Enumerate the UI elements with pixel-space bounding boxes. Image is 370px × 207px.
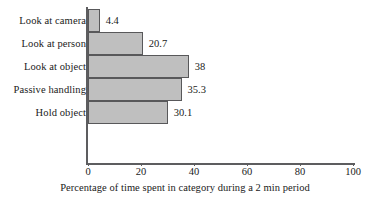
x-axis-tick-label: 80 (280, 166, 320, 177)
bar-value-label: 38 (195, 55, 206, 78)
bar-value-label: 30.1 (174, 101, 192, 124)
x-axis-line (86, 163, 355, 165)
bar (88, 32, 143, 55)
x-axis-tick-label: 20 (121, 166, 161, 177)
bar-value-label: 35.3 (188, 78, 206, 101)
x-axis-tick-label: 0 (68, 166, 108, 177)
bar (88, 101, 168, 124)
bar-value-label: 20.7 (149, 32, 167, 55)
x-axis-tick-label: 60 (227, 166, 267, 177)
y-axis-line (86, 7, 88, 164)
category-label: Hold object (36, 101, 86, 124)
x-axis-title: Percentage of time spent in category dur… (0, 182, 370, 193)
category-label: Look at camera (19, 9, 86, 32)
bar (88, 55, 189, 78)
x-axis-tick-label: 40 (174, 166, 214, 177)
bar-value-label: 4.4 (106, 9, 119, 32)
category-label: Passive handling (14, 78, 86, 101)
bar (88, 9, 100, 32)
bar (88, 78, 182, 101)
category-label: Look at object (24, 55, 86, 78)
bar-chart: Look at camera Look at person Look at ob… (0, 0, 370, 207)
plot-area: 4.4 20.7 38 35.3 30.1 (88, 9, 353, 163)
x-axis-tick-label: 100 (333, 166, 370, 177)
category-label: Look at person (22, 32, 86, 55)
